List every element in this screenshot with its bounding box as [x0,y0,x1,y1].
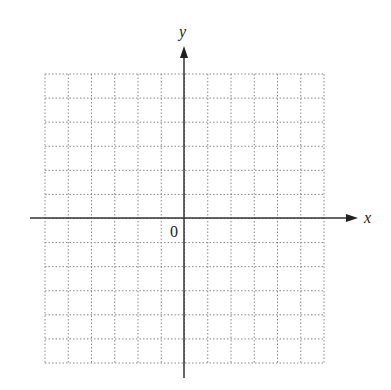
x-axis-label: x [363,209,371,226]
origin-label: 0 [170,223,178,240]
coordinate-plane: x y 0 [0,0,391,390]
y-axis-label: y [177,23,187,41]
x-axis-arrow-icon [346,214,358,222]
y-axis-arrow-icon [180,46,188,58]
